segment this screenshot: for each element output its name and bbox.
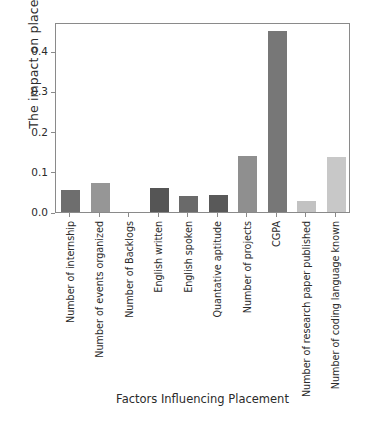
y-tick-mark	[51, 52, 55, 53]
x-tick-label: Number of events organized	[99, 84, 110, 221]
y-tick-label: 0.4	[31, 45, 48, 57]
y-tick-mark	[51, 132, 55, 133]
x-tick-label: English written	[158, 149, 169, 221]
y-tick-mark	[51, 92, 55, 93]
x-tick-label: English spoken	[188, 149, 199, 221]
y-tick-label: 0.2	[31, 126, 48, 138]
x-tick-label: CGPA	[276, 195, 287, 221]
x-tick-label: Number of Backlogs	[129, 124, 140, 221]
x-tick-label: Number of internship	[70, 119, 81, 221]
bar	[268, 31, 287, 212]
x-tick-label: Number of research paper published	[306, 45, 317, 221]
x-axis-label: Factors Influencing Placement	[55, 392, 350, 406]
y-tick-label: 0.3	[31, 85, 48, 97]
y-tick-mark	[51, 213, 55, 214]
x-tick-label: Number of coding language known	[335, 53, 346, 221]
figure-caption	[4, 412, 364, 422]
y-tick-mark	[51, 172, 55, 173]
x-tick-label: Number of projects	[247, 129, 258, 221]
y-tick-label: 0.1	[31, 166, 48, 178]
y-axis-label: The impact on placement	[26, 0, 41, 143]
x-tick-label: Quantative aptitude	[217, 124, 228, 221]
y-tick-label: 0.0	[31, 206, 48, 218]
bar-chart-figure: The impact on placement 0.00.10.20.30.4 …	[0, 0, 367, 422]
